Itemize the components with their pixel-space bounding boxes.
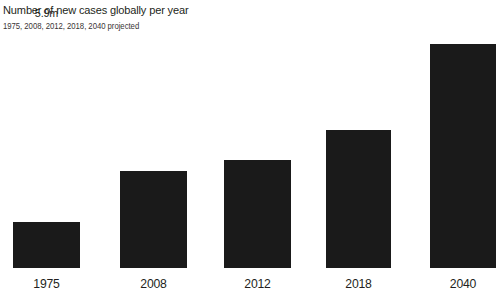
bar-rect[interactable] <box>224 160 291 268</box>
bar-category-label: 2040 <box>432 276 494 290</box>
bar-rect[interactable] <box>326 130 391 268</box>
bar-rect[interactable] <box>13 222 80 268</box>
bar-group: 29.4m 2040 <box>430 0 496 290</box>
plot-area: 5.9m 1975 12.7m 2008 14.1m 2012 18.1m 20… <box>0 0 501 290</box>
bar-rect[interactable] <box>120 171 187 268</box>
bar-category-label: 2018 <box>328 276 389 290</box>
bar-chart: Number of new cases globally per year 19… <box>0 0 501 290</box>
bar-value-label: 5.9m <box>15 7 78 20</box>
bar-category-label: 2008 <box>122 276 185 290</box>
bar-category-label: 1975 <box>15 276 78 290</box>
bar-group: 12.7m 2008 <box>120 0 187 290</box>
bar-group: 18.1m 2018 <box>326 0 391 290</box>
bar-group: 14.1m 2012 <box>224 0 291 290</box>
bar-category-label: 2012 <box>226 276 289 290</box>
bar-group: 5.9m 1975 <box>13 0 80 290</box>
bar-rect[interactable] <box>430 44 496 268</box>
